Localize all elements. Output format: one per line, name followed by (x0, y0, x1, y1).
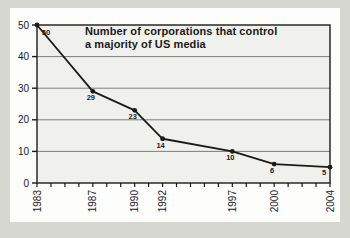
y-tick-label: 20 (18, 114, 30, 125)
y-tick-label: 10 (18, 146, 30, 157)
data-point-label: 23 (128, 112, 136, 121)
x-axis-year-label: 1983 (32, 190, 43, 213)
x-axis-year-label: 1997 (227, 190, 238, 213)
y-tick-label: 30 (18, 83, 30, 94)
data-point-label: 14 (156, 141, 165, 150)
chart-title: Number of corporations that control a ma… (85, 25, 277, 50)
x-axis-year-label: 1987 (87, 190, 98, 213)
data-point-label: 29 (87, 93, 95, 102)
data-point-label: 5 (322, 168, 326, 177)
y-tick-label: 50 (18, 20, 30, 31)
x-axis-year-label: 1990 (129, 190, 140, 213)
chart-title-line1: Number of corporations that control (85, 25, 277, 38)
y-tick-label: 40 (18, 51, 30, 62)
data-point-marker (35, 23, 40, 28)
data-point-marker (328, 165, 333, 170)
page-root: 0102030405019831987199019921997200020045… (0, 0, 350, 238)
chart-title-line2: a majority of US media (85, 38, 277, 51)
x-axis-year-label: 2004 (325, 190, 336, 213)
data-point-label: 50 (42, 28, 50, 37)
data-point-label: 6 (270, 166, 274, 175)
y-tick-label: 0 (23, 178, 29, 189)
x-axis-year-label: 1992 (157, 190, 168, 213)
chart-card: 0102030405019831987199019921997200020045… (10, 8, 340, 222)
x-axis-year-label: 2000 (269, 190, 280, 213)
data-point-label: 10 (226, 153, 234, 162)
